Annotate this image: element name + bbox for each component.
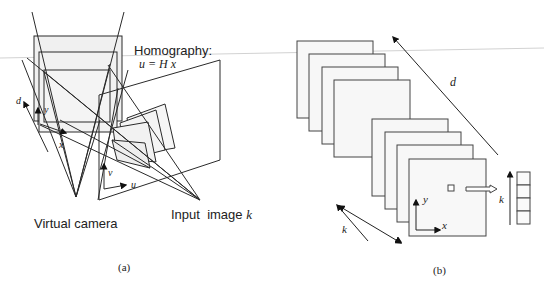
- label-v: v: [108, 167, 113, 178]
- depth-vector: [517, 172, 530, 224]
- pixel-marker: [448, 185, 454, 191]
- vector-cell-3: [517, 198, 530, 211]
- u-axis-arrow: [104, 185, 126, 189]
- label-x-b: x: [441, 219, 447, 231]
- label-y-b: y: [422, 193, 428, 205]
- label-x-a: x: [58, 139, 64, 150]
- caption-b: (b): [433, 264, 446, 277]
- label-d-a: d: [16, 95, 22, 106]
- caption-a: (a): [118, 261, 131, 274]
- vector-cell-4: [517, 211, 530, 224]
- vector-cell-2: [517, 185, 530, 198]
- panel-a: [22, 12, 220, 200]
- virtual-camera-label: Virtual camera: [34, 216, 118, 231]
- image-stack: [297, 41, 486, 236]
- homography-title: Homography:: [134, 43, 212, 58]
- vector-cell-1: [517, 172, 530, 185]
- label-k-stack: k: [342, 223, 348, 235]
- homography-equation: u = H x: [139, 57, 177, 71]
- label-d-b: d: [450, 75, 457, 89]
- label-k-vector: k: [499, 193, 505, 205]
- input-image-text: Input image: [171, 207, 246, 222]
- label-y-a: y: [43, 104, 49, 115]
- stack-image-8: [409, 159, 486, 236]
- input-image-label: Input image k: [171, 207, 252, 222]
- figure-canvas: Homography: u = H x d y x v u Virtual ca…: [0, 0, 544, 289]
- panel-b: [297, 41, 530, 236]
- virtual-plane-3: [44, 70, 110, 122]
- label-u: u: [131, 179, 136, 190]
- input-image-index: k: [246, 207, 252, 222]
- k-double-arrow: [339, 206, 401, 243]
